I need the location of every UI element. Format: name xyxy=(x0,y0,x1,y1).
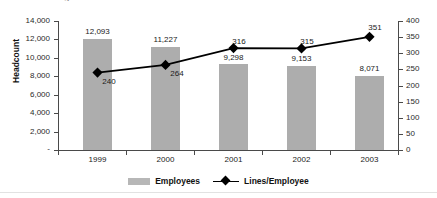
legend-item-lines-per-employee: Lines/Employee xyxy=(213,176,309,186)
legend-item-employees: Employees xyxy=(128,176,200,186)
line-value-label: 240 xyxy=(88,78,130,86)
legend-label-employees: Employees xyxy=(155,176,200,186)
line-value-label: 315 xyxy=(286,38,328,46)
line-value-label: 351 xyxy=(354,24,396,32)
line-marker-swatch-icon xyxy=(213,177,239,186)
line-value-label: 316 xyxy=(218,38,260,46)
category-label-2003: 2003 xyxy=(345,156,395,164)
combo-chart: Wired-Line Segment Headcount 14,000 12,0… xyxy=(0,0,437,198)
category-label-2000: 2000 xyxy=(141,156,191,164)
category-label-1999: 1999 xyxy=(73,156,123,164)
category-label-2002: 2002 xyxy=(277,156,327,164)
bar-swatch-icon xyxy=(128,178,150,185)
category-label-2001: 2001 xyxy=(209,156,259,164)
bottom-divider xyxy=(0,192,437,193)
line-value-label: 264 xyxy=(156,70,198,78)
legend-label-lines-per-employee: Lines/Employee xyxy=(244,176,309,186)
chart-legend: Employees Lines/Employee xyxy=(0,176,437,186)
